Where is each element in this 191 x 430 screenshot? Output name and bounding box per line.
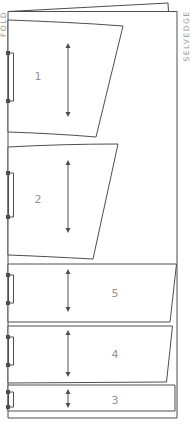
pattern-layout-canvas: FOLD SELVEDGE 1 — [0, 0, 190, 430]
piece-number: 1 — [35, 70, 42, 83]
piece-outline — [8, 264, 177, 322]
pattern-piece-4: 4 — [6, 326, 173, 383]
piece-number: 4 — [112, 348, 119, 361]
selvedge-label: SELVEDGE — [182, 10, 191, 61]
piece-number: 2 — [35, 193, 42, 206]
fold-label: FOLD — [0, 11, 8, 37]
pattern-piece-5: 5 — [6, 264, 177, 322]
fabric-fold-flap — [8, 3, 169, 12]
pattern-piece-3: 3 — [6, 385, 175, 411]
cutting-layout-diagram: FOLD SELVEDGE 1 — [0, 0, 190, 430]
piece-number: 3 — [112, 394, 119, 407]
piece-outline — [8, 385, 175, 411]
piece-number: 5 — [112, 287, 119, 300]
piece-outline — [8, 326, 173, 383]
